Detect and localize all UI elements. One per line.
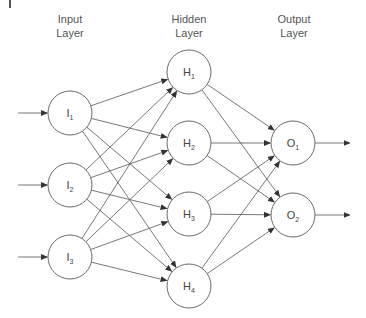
node-letter: H xyxy=(183,208,191,220)
layer-title-line2: Layer xyxy=(280,27,308,39)
node-subscript: 3 xyxy=(70,258,74,265)
node-circle xyxy=(48,163,92,207)
node-subscript: 1 xyxy=(295,144,299,151)
edge-i1-h2 xyxy=(91,118,167,137)
node-circle xyxy=(48,235,92,279)
node-o1: O1 xyxy=(271,121,315,165)
corner-mark xyxy=(9,0,11,8)
layer-title-input: Input Layer xyxy=(56,13,84,39)
layer-title-line2: Layer xyxy=(175,27,203,39)
layer-title-output: Output Layer xyxy=(277,13,310,39)
edge-i2-h1 xyxy=(86,88,173,170)
node-i2: I2 xyxy=(48,163,92,207)
edge-h4-o2 xyxy=(207,228,274,274)
node-subscript: 1 xyxy=(70,114,74,121)
node-circle xyxy=(48,91,92,135)
node-h1: H1 xyxy=(167,50,211,94)
node-subscript: 2 xyxy=(191,144,195,151)
edge-i3-h1 xyxy=(82,91,177,239)
edge-i1-h1 xyxy=(91,79,168,106)
connections xyxy=(82,79,280,280)
node-subscript: 2 xyxy=(70,186,74,193)
layer-title-line1: Hidden xyxy=(172,13,207,25)
neural-network-diagram: Input Layer Hidden Layer Output Layer I1… xyxy=(0,0,366,318)
node-h4: H4 xyxy=(167,264,211,308)
edge-i1-h3 xyxy=(87,127,172,199)
node-h3: H3 xyxy=(167,192,211,236)
edge-i3-h2 xyxy=(86,159,173,242)
node-letter: H xyxy=(183,137,191,149)
node-h2: H2 xyxy=(167,121,211,165)
layer-title-line2: Layer xyxy=(56,27,84,39)
nodes: I1I2I3H1H2H3H4O1O2 xyxy=(48,50,315,308)
node-letter: H xyxy=(183,66,191,78)
layer-title-line1: Output xyxy=(277,13,310,25)
layer-title-hidden: Hidden Layer xyxy=(172,13,207,39)
node-o2: O2 xyxy=(271,193,315,237)
node-i1: I1 xyxy=(48,91,92,135)
node-letter: H xyxy=(183,280,191,292)
node-subscript: 3 xyxy=(191,215,195,222)
edge-i3-h4 xyxy=(91,262,167,281)
node-subscript: 4 xyxy=(191,287,195,294)
edge-h1-o1 xyxy=(207,84,274,130)
node-i3: I3 xyxy=(48,235,92,279)
node-subscript: 1 xyxy=(191,73,195,80)
layer-title-line1: Input xyxy=(58,13,82,25)
node-subscript: 2 xyxy=(295,216,299,223)
